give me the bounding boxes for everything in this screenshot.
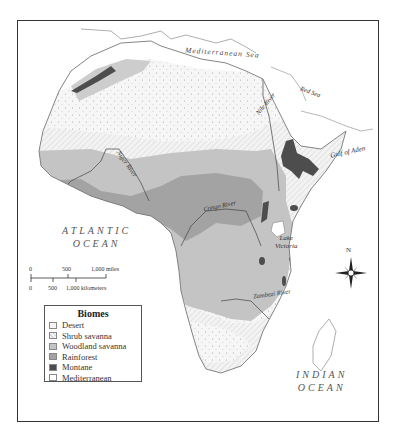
legend-item-montane: Montane: [49, 362, 137, 373]
madagascar: [313, 319, 336, 371]
legend-item-desert: Desert: [49, 320, 137, 331]
legend-label: Shrub savanna: [62, 331, 112, 341]
atlantic-line1: ATLANTIC: [62, 224, 131, 237]
woodland-savanna-swatch-icon: [49, 343, 57, 350]
legend-label: Montane: [62, 362, 92, 372]
legend-item-mediterranean: Mediterranean: [49, 373, 137, 384]
desert-swatch-icon: [49, 322, 57, 329]
indian-line1: INDIAN: [296, 368, 347, 381]
legend-label: Desert: [62, 320, 84, 330]
scale-miles-500: 500: [62, 266, 71, 272]
indian-ocean-label: INDIAN OCEAN: [296, 368, 347, 394]
montane-malawi: [282, 276, 286, 286]
mediterranean-swatch-icon: [49, 374, 57, 381]
legend-label: Rainforest: [62, 352, 97, 362]
legend-label: Woodland savanna: [62, 341, 126, 351]
montane-tanzania: [289, 255, 303, 263]
compass-rose-icon: [335, 257, 367, 289]
indian-line2: OCEAN: [296, 381, 347, 394]
rainforest-swatch-icon: [49, 353, 57, 360]
legend-label: Mediterranean: [62, 373, 112, 383]
arabia-south-coastline: [301, 111, 373, 131]
montane-tanzania-west: [259, 257, 265, 265]
legend-item-shrub-savanna: Shrub savanna: [49, 331, 137, 342]
atlantic-ocean-label: ATLANTIC OCEAN: [62, 224, 131, 250]
montane-kenya: [290, 205, 298, 211]
legend-item-rainforest: Rainforest: [49, 352, 137, 363]
montane-swatch-icon: [49, 364, 57, 371]
scale-km-1000: 1,000 kilometers: [66, 285, 106, 291]
scale-bar: 0 500 1,000 miles 0 500 1,000 kilometers: [28, 266, 138, 296]
shrub-savanna-swatch-icon: [49, 332, 57, 339]
atlantic-line2: OCEAN: [62, 237, 131, 250]
scale-miles-0: 0: [29, 266, 32, 272]
lake-victoria-line2: Victoria: [275, 242, 297, 250]
scale-km-0: 0: [29, 285, 32, 291]
lake-victoria-label: Lake Victoria: [275, 234, 297, 250]
biomes-legend: Biomes Desert Shrub savanna Woodland sav…: [44, 305, 142, 382]
compass-north-label: N: [346, 246, 351, 254]
legend-item-woodland-savanna: Woodland savanna: [49, 341, 137, 352]
scale-bar-line: [28, 274, 128, 284]
scale-km-500: 500: [48, 285, 57, 291]
scale-miles-1000: 1,000 miles: [91, 266, 119, 272]
lake-victoria-line1: Lake: [275, 234, 297, 242]
legend-title: Biomes: [49, 308, 137, 319]
